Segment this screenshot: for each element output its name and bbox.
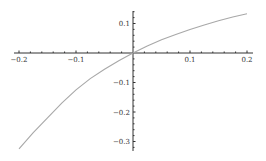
- x-tick-label: 0.1: [184, 56, 195, 64]
- x-tick-label: 0.2: [241, 56, 252, 64]
- y-tick-label: 0.1: [119, 20, 130, 28]
- y-axis: 0.1−0.1−0.2−0.3: [113, 11, 136, 151]
- y-tick-label: −0.3: [113, 138, 130, 146]
- line-chart: −0.2−0.10.10.2 0.1−0.1−0.2−0.3: [0, 0, 266, 161]
- y-tick-label: −0.2: [113, 109, 130, 117]
- x-tick-label: −0.1: [68, 56, 85, 64]
- x-axis: −0.2−0.10.10.2: [11, 51, 254, 65]
- y-tick-label: −0.1: [113, 79, 130, 87]
- x-tick-label: −0.2: [11, 56, 28, 64]
